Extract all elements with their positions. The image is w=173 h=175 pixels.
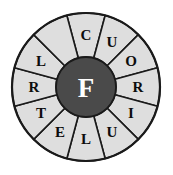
sector-letter-1: U — [107, 34, 118, 50]
sector-letter-10: L — [36, 53, 46, 69]
sector-letter-6: L — [81, 131, 91, 147]
sector-letter-7: E — [55, 124, 65, 140]
letter-wheel-figure: F CUORIULETRL — [0, 0, 173, 175]
sector-letter-9: R — [29, 79, 40, 95]
sector-letter-8: T — [36, 105, 46, 121]
hub-letter: F — [78, 73, 95, 103]
sector-letter-3: R — [133, 79, 144, 95]
letter-wheel-canvas: F CUORIULETRL — [0, 0, 173, 175]
sector-letter-2: O — [125, 53, 137, 69]
sector-letter-5: U — [107, 124, 118, 140]
sector-letter-0: C — [81, 27, 92, 43]
sector-letter-4: I — [128, 105, 134, 121]
